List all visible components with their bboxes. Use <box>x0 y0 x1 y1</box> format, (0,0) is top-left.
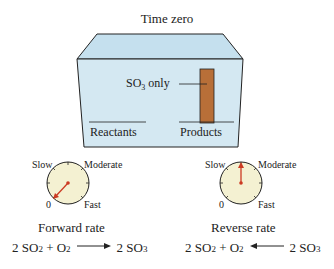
reverse-rate-dial <box>220 162 262 204</box>
forward-rate-dial <box>47 162 89 204</box>
products-label: Products <box>180 125 222 140</box>
needle-pivot <box>66 181 70 185</box>
dial-label-zero: 0 <box>219 199 224 210</box>
forward-rate-label: Forward rate <box>38 220 105 236</box>
forward-equation: 2 SO2 + O2 2 SO3 <box>12 240 147 256</box>
needle-pivot <box>239 181 243 185</box>
products-bar <box>200 69 214 123</box>
dial-label-slow: Slow <box>205 159 226 170</box>
container-top-face <box>77 34 243 59</box>
bar-label: SO3 only <box>126 76 170 92</box>
dial-label-zero: 0 <box>46 199 51 210</box>
dial-label-slow: Slow <box>32 159 53 170</box>
right-arrow-icon <box>77 242 111 250</box>
dial-label-fast: Fast <box>258 199 275 210</box>
reverse-rate-label: Reverse rate <box>211 220 276 236</box>
dial-label-moderate: Moderate <box>84 159 122 170</box>
dial-label-moderate: Moderate <box>258 159 296 170</box>
reverse-equation: 2 SO2 + O2 2 SO3 <box>185 240 320 256</box>
left-arrow-icon <box>250 242 284 250</box>
reactants-label: Reactants <box>90 125 137 140</box>
dial-label-fast: Fast <box>84 199 101 210</box>
